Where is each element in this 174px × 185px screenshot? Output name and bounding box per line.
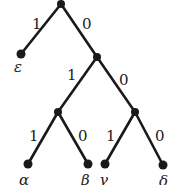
leaf-label-beta: β — [80, 171, 90, 185]
edge-n1-n3 — [97, 57, 135, 112]
edge-label-n1-n3: 0 — [119, 71, 129, 89]
edge-label-root-epsilon: 1 — [32, 15, 42, 33]
edge-label-n2-alpha: 1 — [29, 127, 39, 145]
leaf-label-gamma: γ — [99, 171, 108, 185]
node-alpha — [24, 160, 33, 169]
leaf-label-delta: δ — [159, 172, 168, 185]
leaf-label-alpha: α — [19, 171, 29, 185]
node-root — [57, 0, 65, 8]
edge-label-n1-n2: 1 — [67, 66, 77, 84]
node-n3 — [131, 108, 139, 116]
edge-root-n1 — [61, 4, 97, 57]
node-n1 — [93, 53, 101, 61]
node-n2 — [54, 108, 62, 116]
edge-label-n3-delta: 0 — [155, 127, 165, 145]
node-delta — [159, 161, 168, 170]
edge-label-n2-beta: 0 — [78, 127, 88, 145]
edge-label-root-n1: 0 — [82, 15, 92, 33]
tree-diagram: 1 0 1 0 1 0 1 0 ε α β γ δ — [0, 0, 174, 185]
node-gamma — [101, 160, 110, 169]
node-beta — [84, 160, 93, 169]
edge-label-n3-gamma: 1 — [106, 127, 116, 145]
edge-n1-n2 — [58, 57, 97, 112]
leaf-label-epsilon: ε — [14, 58, 22, 76]
